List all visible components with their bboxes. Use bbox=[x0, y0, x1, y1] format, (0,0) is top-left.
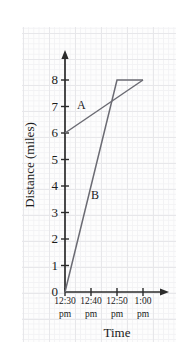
x-tick-label-3: 1:00 bbox=[126, 296, 160, 306]
distance-time-graph-figure: 0 1 2 3 4 5 6 7 8 12:30 12:40 12:50 1:00… bbox=[0, 0, 194, 362]
y-tick-label-1: 1 bbox=[44, 258, 58, 274]
y-tick-label-2: 2 bbox=[44, 231, 58, 247]
y-tick-label-7: 7 bbox=[44, 99, 58, 115]
y-axis-arrow-icon bbox=[61, 50, 68, 59]
series-label-b: B bbox=[91, 188, 99, 203]
y-tick-label-6: 6 bbox=[44, 125, 58, 141]
x-tick-sublabel-3: pm bbox=[126, 309, 160, 319]
y-tick-label-8: 8 bbox=[44, 72, 58, 88]
series-label-a: A bbox=[77, 98, 86, 113]
y-tick-label-4: 4 bbox=[44, 178, 58, 194]
x-axis-title: Time bbox=[57, 325, 177, 341]
y-tick-label-3: 3 bbox=[44, 205, 58, 221]
x-axis-arrow-icon bbox=[160, 288, 169, 295]
y-axis-title: Distance (miles) bbox=[22, 90, 38, 240]
y-tick-label-5: 5 bbox=[44, 152, 58, 168]
